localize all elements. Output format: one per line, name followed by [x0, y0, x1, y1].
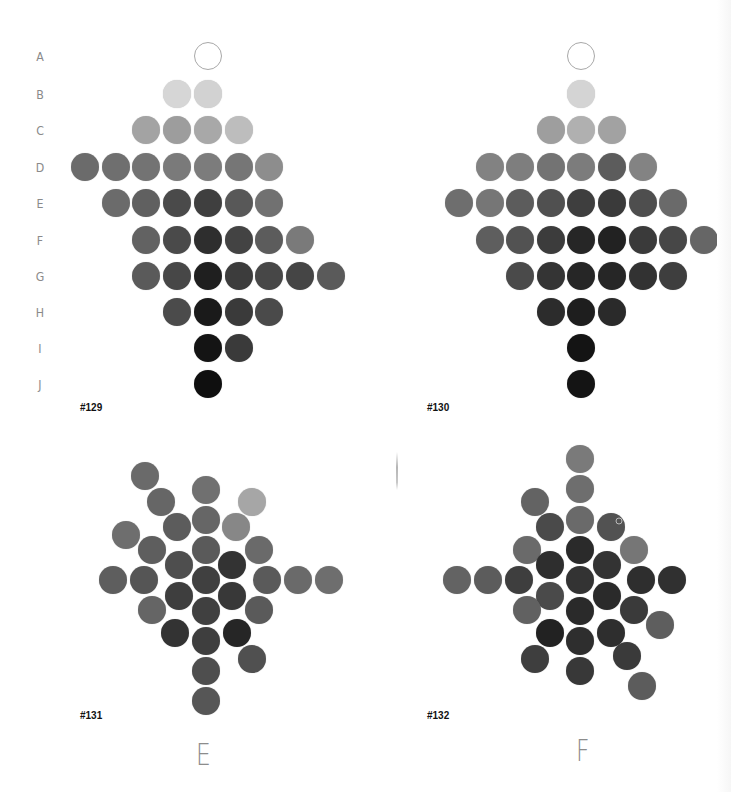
shade-circle [566, 475, 594, 503]
shade-circle [566, 597, 594, 625]
scatter-panel-132 [0, 0, 731, 792]
shade-circle [613, 642, 641, 670]
panel-id-132: #132 [427, 710, 449, 721]
shade-circle [536, 551, 564, 579]
shade-circle [536, 513, 564, 541]
row-label-c: C [32, 123, 49, 138]
row-label-e: E [32, 196, 49, 211]
row-label-j: J [32, 377, 49, 392]
shade-circle [593, 582, 621, 610]
shade-circle [646, 611, 674, 639]
row-label-d: D [32, 160, 49, 175]
row-label-a: A [32, 49, 49, 64]
shade-circle [521, 488, 549, 516]
row-label-i: I [32, 341, 49, 356]
stray-pencil-mark [396, 452, 398, 490]
shade-circle [443, 566, 471, 594]
caption-letter-f: F [576, 733, 589, 768]
row-label-g: G [32, 269, 49, 284]
shade-circle [566, 657, 594, 685]
shade-circle [505, 566, 533, 594]
shade-circle [658, 566, 686, 594]
shade-circle [521, 645, 549, 673]
panel-id-131: #131 [80, 710, 102, 721]
row-label-f: F [32, 233, 49, 248]
small-ring-mark [616, 518, 623, 525]
shade-circle [513, 596, 541, 624]
shade-circle [620, 536, 648, 564]
shade-circle [593, 551, 621, 579]
shade-circle [474, 566, 502, 594]
shade-circle [566, 536, 594, 564]
shade-circle [566, 566, 594, 594]
shade-circle [566, 627, 594, 655]
shade-circle [566, 445, 594, 473]
row-label-b: B [32, 87, 49, 102]
shade-circle [536, 619, 564, 647]
shade-circle [628, 672, 656, 700]
row-label-h: H [32, 305, 49, 320]
panel-id-130: #130 [427, 402, 449, 413]
panel-id-129: #129 [80, 402, 102, 413]
page-edge-shadow [717, 0, 731, 792]
shade-circle [620, 596, 648, 624]
caption-letter-e: E [196, 737, 211, 772]
shade-circle [627, 566, 655, 594]
shade-circle [566, 506, 594, 534]
